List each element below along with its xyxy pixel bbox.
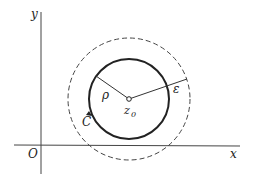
center-label: z (123, 104, 130, 117)
center-point (127, 97, 132, 102)
contour-label: C (82, 115, 91, 129)
rho-radius (96, 76, 129, 99)
diagram-canvas: y x O ρ ε C z 0 (0, 0, 253, 183)
origin-label: O (28, 147, 38, 161)
x-axis (14, 145, 240, 146)
epsilon-label: ε (173, 82, 179, 96)
y-axis-label: y (30, 7, 38, 21)
rho-label: ρ (101, 88, 109, 102)
x-axis-label: x (230, 147, 237, 161)
center-subscript: 0 (131, 110, 136, 119)
